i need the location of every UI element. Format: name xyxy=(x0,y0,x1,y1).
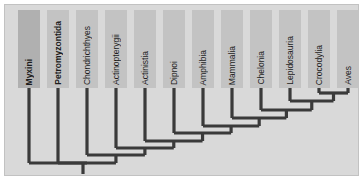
tree-branches xyxy=(0,0,363,180)
cladogram-figure: MyxiniPetromyzontidaChondrichthyesActino… xyxy=(0,0,363,180)
